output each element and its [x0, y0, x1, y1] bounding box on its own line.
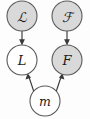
graph-canvas: ℒ ℱ L F m [0, 0, 90, 119]
node-script-L[interactable]: ℒ [7, 1, 37, 31]
graphical-model-diagram: ℒ ℱ L F m [0, 0, 90, 119]
edge-scriptF-to-F [64, 31, 70, 45]
node-layer: ℒ ℱ L F m [7, 1, 82, 116]
node-F[interactable]: F [52, 45, 82, 75]
node-L-label: L [17, 53, 27, 68]
node-m-label: m [39, 94, 51, 109]
node-L[interactable]: L [7, 45, 37, 75]
edge-m-to-F [56, 73, 64, 92]
edge-scriptL-to-L [19, 31, 25, 45]
edge-m-to-L [26, 73, 35, 92]
node-m[interactable]: m [30, 86, 60, 116]
edge-m-to-L-line [29, 78, 34, 92]
edge-m-to-F-line [56, 78, 61, 92]
node-script-F[interactable]: ℱ [52, 1, 82, 31]
node-script-L-label: ℒ [17, 9, 27, 25]
node-F-label: F [61, 53, 72, 68]
